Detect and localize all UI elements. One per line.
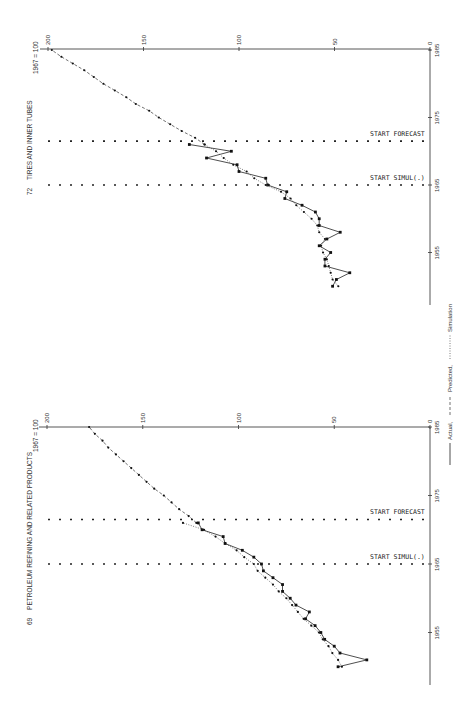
simulation-point (303, 618, 305, 620)
simulation-point (310, 218, 312, 220)
actual-point (264, 177, 267, 180)
simulation-point (204, 143, 206, 145)
actual-point (188, 143, 191, 146)
legend-predicted-label: Predicted, (447, 365, 453, 392)
simulation-point (182, 522, 184, 524)
value-tick-label: 200 (45, 34, 51, 45)
actual-point (314, 211, 317, 214)
actual-point (314, 624, 317, 627)
simulation-point (297, 611, 299, 613)
year-axis: 1955196519751985 (428, 43, 440, 305)
simulation-point (337, 659, 339, 661)
value-tick-label: 0 (427, 419, 433, 423)
predicted-point (158, 116, 160, 118)
simulation-point (328, 265, 330, 267)
annotation-label: START FORECAST (370, 130, 425, 138)
simulation-point (223, 157, 225, 159)
predicted-point (114, 89, 116, 91)
predicted-point (169, 123, 171, 125)
simulation-point (253, 563, 255, 565)
simulation-point (278, 590, 280, 592)
simulation-point (341, 666, 343, 668)
actual-point (289, 597, 292, 600)
series-lines (88, 426, 368, 668)
actual-point (281, 583, 284, 586)
predicted-point (88, 426, 90, 428)
actual-point (339, 231, 342, 234)
actual-point (324, 265, 327, 268)
predicted-point (83, 69, 85, 71)
value-tick-label: 50 (332, 38, 338, 45)
predicted-point (188, 515, 190, 517)
actual-point (335, 278, 338, 281)
actual-point (318, 217, 321, 220)
predicted-point (115, 453, 117, 455)
actual-point (295, 604, 298, 607)
simulation-point (303, 211, 305, 213)
index-base-label: 1967 = 100 (32, 419, 39, 452)
actual-point (241, 549, 244, 552)
actual-point (230, 150, 233, 153)
simulation-point (253, 177, 255, 179)
simulation-point (331, 652, 333, 654)
predicted-point (170, 501, 172, 503)
actual-point (205, 157, 208, 160)
simulation-point (280, 191, 282, 193)
actual-point (281, 590, 284, 593)
simulation-point (326, 258, 328, 260)
predicted-point (93, 76, 95, 78)
legend-simulation-label: Simulation (447, 304, 453, 332)
predicted-point (102, 83, 104, 85)
legend-actual-label: Actual, (447, 421, 453, 440)
annotation-lines: START SIMUL(.)START FORECAST (48, 508, 426, 564)
simulation-point (318, 231, 320, 233)
simulation-point (331, 278, 333, 280)
predicted-point (51, 49, 53, 51)
predicted-point (163, 494, 165, 496)
series-actual (198, 523, 366, 667)
predicted-point (194, 137, 196, 139)
chart-title-text: TIRES AND INNER TUBES (26, 100, 33, 180)
simulation-point (320, 245, 322, 247)
actual-point (260, 563, 263, 566)
predicted-point (130, 467, 132, 469)
simulation-point (337, 285, 339, 287)
simulation-point (243, 556, 245, 558)
predicted-point (153, 488, 155, 490)
actual-point (329, 251, 332, 254)
simulation-point (265, 184, 267, 186)
legend: Actual, Predicted, Simulation (447, 304, 453, 465)
predicted-point (135, 103, 137, 105)
predicted-point (123, 460, 125, 462)
actual-point (339, 652, 342, 655)
simulation-point (327, 645, 329, 647)
simulation-point (232, 164, 234, 166)
simulation-point (295, 204, 297, 206)
simulation-point (285, 597, 287, 599)
year-tick-label: 1975 (434, 488, 440, 502)
year-tick-label: 1955 (434, 245, 440, 259)
year-tick-label: 1965 (434, 178, 440, 192)
simulation-point (310, 625, 312, 627)
simulation-point (289, 197, 291, 199)
year-tick-label: 1985 (434, 43, 440, 57)
year-axis: 1955196519751985 (428, 420, 440, 685)
annotation-label: START SIMUL(.) (370, 174, 425, 182)
chart-number: 72 (26, 187, 33, 195)
annotation-label: START SIMUL(.) (370, 553, 425, 561)
value-tick-label: 150 (141, 34, 147, 45)
simulation-point (318, 631, 320, 633)
chart-title-text: PETROLEUM REFINING AND RELATED PRODUCTS (26, 451, 33, 610)
series-predicted (89, 427, 196, 523)
predicted-point (148, 110, 150, 112)
simulation-point (324, 238, 326, 240)
actual-point (348, 271, 351, 274)
actual-point (238, 170, 241, 173)
actual-point (272, 576, 275, 579)
series-simulation (205, 145, 339, 287)
simulation-point (235, 549, 237, 551)
predicted-point (181, 130, 183, 132)
simulation-point (316, 224, 318, 226)
chart-petroleum: 69 PETROLEUM REFINING AND RELATED PRODUC… (26, 412, 440, 685)
simulation-point (330, 272, 332, 274)
